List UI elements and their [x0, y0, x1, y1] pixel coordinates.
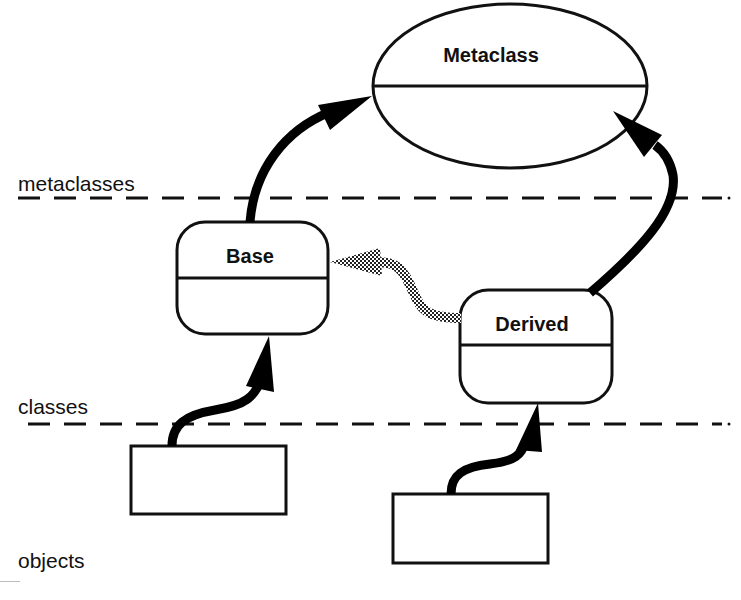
edge-derived-to-metaclass: [590, 111, 673, 293]
node-title-derived: Derived: [495, 313, 568, 335]
layer-separator-classes: [28, 423, 731, 426]
arrowhead-icon: [246, 336, 274, 392]
edge-derived-object-to-derived: [451, 403, 542, 494]
scan-artifact-rule: [0, 581, 20, 582]
node-base-object: [131, 446, 286, 514]
node-title-base: Base: [226, 245, 274, 267]
node-base: Base: [177, 222, 328, 334]
layer-label-metaclasses: metaclasses: [18, 172, 135, 195]
metaclass-diagram: metaclasses classes objects Metaclass Ba…: [0, 0, 741, 600]
edge-derived-inherits-base: [330, 248, 461, 318]
node-derived: Derived: [460, 290, 612, 403]
edge-base-object-to-base: [172, 336, 274, 446]
node-metaclass: Metaclass: [373, 4, 647, 168]
node-derived-object: [393, 494, 548, 563]
layer-label-objects: objects: [18, 549, 85, 572]
node-title-metaclass: Metaclass: [443, 44, 539, 66]
arrowhead-icon: [330, 248, 382, 276]
edge-base-to-metaclass: [250, 96, 372, 222]
arrowhead-icon: [318, 96, 372, 130]
arrowhead-icon: [516, 403, 542, 452]
layer-separator-metaclasses: [18, 197, 731, 200]
layer-label-classes: classes: [18, 395, 88, 418]
